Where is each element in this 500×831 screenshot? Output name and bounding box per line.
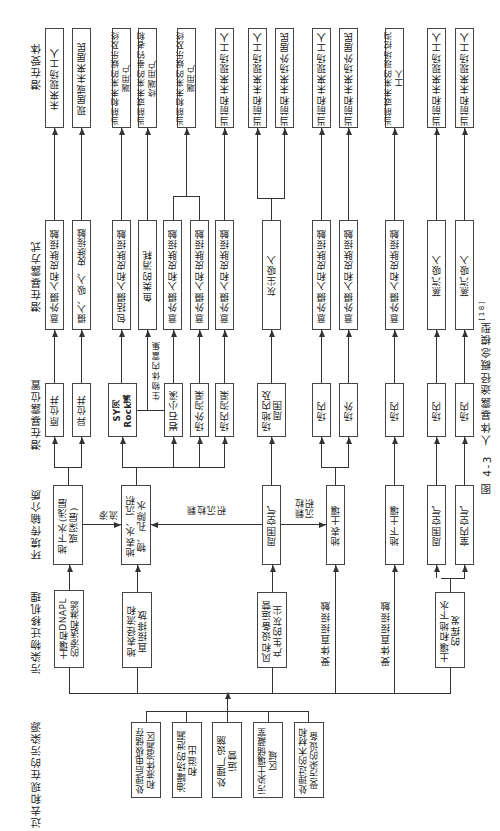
connector bbox=[136, 467, 137, 485]
location-box: SY河 Rock溪 bbox=[108, 383, 137, 437]
media-box: 室内空气 bbox=[455, 485, 474, 565]
source-box: 污染土壤储藏室 区域 bbox=[253, 722, 283, 798]
receptor-box: 当前和未来现场工人 bbox=[312, 28, 331, 128]
location-box: 异位井 bbox=[72, 383, 91, 437]
arrow-up bbox=[79, 437, 85, 444]
arrow-up bbox=[462, 437, 468, 444]
mechanism-box: 土壤和DNAPL 的渗透和淋滤 bbox=[54, 590, 84, 668]
receptor-box: 当前和未来的娱乐及终端用户 bbox=[112, 28, 131, 128]
connector bbox=[54, 128, 55, 220]
receptor-box: 当前和未来的娱乐及终端用户 bbox=[177, 28, 196, 128]
connector bbox=[321, 128, 322, 220]
connector bbox=[186, 128, 187, 196]
arrow-up bbox=[52, 128, 58, 135]
receptor-box: 当前和未来场外居民 bbox=[275, 28, 294, 128]
location-box: 场内沟渠 bbox=[215, 383, 234, 437]
connector bbox=[394, 330, 395, 383]
arrow-up bbox=[392, 128, 398, 135]
connector bbox=[450, 578, 451, 592]
connector bbox=[348, 330, 349, 383]
location-box: 场内 bbox=[385, 383, 404, 437]
media-box: 地下土壤 bbox=[385, 485, 404, 565]
arrow-up bbox=[434, 565, 440, 572]
media-box: 周围空气 bbox=[262, 485, 281, 565]
arrow-up bbox=[184, 128, 190, 135]
connector bbox=[321, 330, 322, 383]
arrow-up bbox=[79, 330, 85, 337]
arrow-up bbox=[171, 437, 177, 444]
receptor-box: 当前和未来现场工人 bbox=[455, 28, 474, 128]
route-box: 意外摄入和皮肤接触 bbox=[163, 220, 182, 330]
connector bbox=[54, 330, 55, 383]
media-box: 地表水、沉积 物、孔隙水 bbox=[121, 485, 151, 565]
header-routes: 潜在暴露方式 bbox=[28, 240, 43, 312]
location-box: 原位井 bbox=[45, 383, 64, 437]
location-box: 场外 bbox=[339, 383, 358, 437]
figure-caption: 图 4-3 人体暴露途径概念模型[18] bbox=[478, 300, 494, 494]
arrow-up bbox=[119, 330, 125, 337]
arrow-up bbox=[392, 330, 398, 337]
arrow-up bbox=[462, 565, 468, 572]
connector bbox=[272, 668, 273, 693]
arrow-up bbox=[319, 330, 325, 337]
receptor-box: 当前和未来现场工人 bbox=[427, 28, 446, 128]
connector bbox=[348, 128, 349, 220]
mechanism-box: 风和设备运营 产生的灰尘 bbox=[257, 592, 287, 668]
connector bbox=[335, 467, 336, 485]
connector bbox=[121, 330, 122, 383]
connector bbox=[199, 330, 200, 383]
media-box: 地下水(浅层 或深层) bbox=[53, 485, 83, 565]
connector bbox=[321, 467, 349, 468]
connector bbox=[268, 711, 269, 722]
flow-label-seepage: 渗 流 bbox=[98, 510, 118, 520]
route-box: 意外摄入和皮肤接触 bbox=[385, 220, 404, 330]
connector bbox=[122, 467, 225, 468]
header-locations: 潜在暴露位置 bbox=[28, 378, 43, 450]
arrow-up bbox=[346, 330, 352, 337]
receptor-box: 当前和未来现场工人 bbox=[248, 28, 267, 128]
route-box: 鱼类的消耗 bbox=[138, 220, 157, 330]
receptor-box: 现居或未来居民 bbox=[72, 28, 91, 128]
connector bbox=[271, 198, 272, 220]
arrow-up bbox=[119, 128, 125, 135]
arrow-up bbox=[269, 437, 275, 444]
connector bbox=[173, 196, 200, 197]
connector bbox=[271, 330, 272, 383]
mechanism-box: 地表径流和 直接排放 bbox=[122, 592, 152, 668]
connector bbox=[224, 330, 225, 383]
media-box: 周围空气 bbox=[427, 485, 446, 565]
arrow-right bbox=[114, 522, 121, 528]
arrow-up bbox=[282, 128, 288, 135]
arrow-up bbox=[319, 128, 325, 135]
connector bbox=[69, 668, 70, 693]
receptor-box: 当前或未来的垂钓者和终端用户 bbox=[138, 28, 157, 128]
mechanism-label-direct-contact: 受体直接接触 bbox=[321, 600, 331, 666]
connector bbox=[81, 330, 82, 383]
route-box: 意外摄入和皮肤接触 bbox=[190, 220, 209, 330]
connector bbox=[441, 578, 465, 579]
connector bbox=[151, 524, 262, 525]
route-box: 意外摄入和皮肤接触 bbox=[312, 220, 331, 330]
route-box: 意外摄入和皮肤接触 bbox=[215, 220, 234, 330]
arrow-up bbox=[197, 330, 203, 337]
connector bbox=[257, 198, 285, 199]
arrow-up bbox=[171, 330, 177, 337]
connector bbox=[81, 128, 82, 220]
route-box: 包括摄入和皮肤接触 bbox=[112, 220, 131, 330]
connector bbox=[394, 437, 395, 485]
connector bbox=[121, 128, 122, 220]
header-media: 环境传输介质 bbox=[28, 488, 43, 560]
connector bbox=[147, 330, 148, 410]
arrow-up bbox=[462, 330, 468, 337]
connector bbox=[147, 128, 148, 220]
connector bbox=[464, 128, 465, 220]
connector bbox=[436, 330, 437, 383]
route-box: 意外摄入和皮肤接触 bbox=[45, 220, 64, 330]
arrow-up bbox=[222, 437, 228, 444]
connector bbox=[284, 128, 285, 198]
arrow-up bbox=[145, 128, 151, 135]
connector bbox=[271, 437, 272, 485]
arrow-up bbox=[255, 128, 261, 135]
mechanism-box: 土壤和地下水 的挥发 bbox=[435, 592, 465, 668]
connector bbox=[308, 711, 309, 722]
